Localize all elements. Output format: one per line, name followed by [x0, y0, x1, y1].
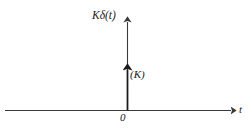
origin-label: 0: [120, 112, 126, 123]
impulse-weight-label: (K): [130, 69, 145, 80]
y-axis-label: Kδ(t): [92, 10, 116, 22]
x-axis-label: t: [239, 104, 242, 115]
impulse-function-figure: Kδ(t) (K) 0 t: [0, 0, 250, 140]
